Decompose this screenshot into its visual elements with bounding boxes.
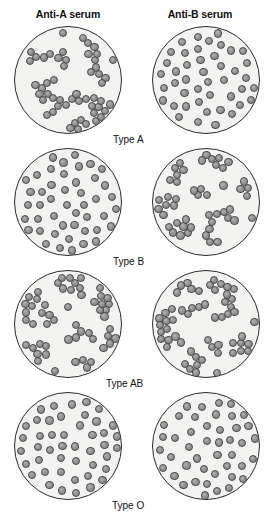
blood-cell xyxy=(21,215,29,223)
blood-cell xyxy=(160,421,168,429)
blood-cell xyxy=(98,79,106,87)
blood-cell xyxy=(206,91,214,99)
blood-cell xyxy=(60,170,68,178)
blood-cell xyxy=(89,461,97,469)
blood-cell xyxy=(59,158,67,166)
blood-cell xyxy=(205,37,213,45)
blood-cell xyxy=(238,439,246,447)
column-header-anti-b-serum: Anti-B serum xyxy=(132,8,268,20)
blood-cell xyxy=(34,288,42,296)
blood-cell xyxy=(249,455,257,463)
blood-cell xyxy=(236,185,244,193)
blood-cell xyxy=(65,235,73,243)
blood-cell xyxy=(70,221,78,229)
blood-cell xyxy=(33,295,41,303)
blood-cell xyxy=(50,402,58,410)
blood-cell xyxy=(34,215,42,223)
blood-cell xyxy=(181,360,189,368)
blood-cell xyxy=(192,368,200,376)
blood-cell xyxy=(33,171,41,179)
blood-cell xyxy=(92,237,100,245)
blood-type-row-type-a: Type A xyxy=(0,26,268,148)
blood-cell xyxy=(214,29,222,37)
blood-cell xyxy=(179,481,187,489)
blood-cell xyxy=(103,452,111,460)
blood-cell xyxy=(157,70,165,78)
blood-cell xyxy=(72,178,80,186)
blood-cell xyxy=(100,441,108,449)
blood-cell xyxy=(215,438,223,446)
blood-cell xyxy=(89,335,97,343)
blood-cell xyxy=(230,285,238,293)
blood-cell xyxy=(109,421,117,429)
blood-cell xyxy=(187,223,195,231)
well-type-o-anti-b xyxy=(152,392,260,500)
blood-cell xyxy=(106,325,114,333)
blood-cell xyxy=(200,465,208,473)
blood-cell xyxy=(226,436,234,444)
blood-cell xyxy=(56,244,64,252)
blood-cell xyxy=(42,240,50,248)
blood-cell xyxy=(90,109,98,117)
blood-cell xyxy=(101,181,109,189)
blood-cell xyxy=(49,153,57,161)
blood-cell xyxy=(230,308,238,316)
blood-cell xyxy=(45,481,53,489)
blood-cell xyxy=(172,67,180,75)
blood-cell xyxy=(187,428,195,436)
blood-cell xyxy=(166,176,174,184)
blood-cell xyxy=(33,416,41,424)
blood-cell xyxy=(81,227,89,235)
blood-cell xyxy=(213,369,221,377)
blood-cell xyxy=(194,85,202,93)
blood-cell xyxy=(164,193,172,201)
blood-cell xyxy=(72,457,80,465)
blood-cell xyxy=(59,221,67,229)
blood-cell xyxy=(159,96,167,104)
blood-cell xyxy=(58,486,66,494)
blood-cell xyxy=(220,76,228,84)
blood-type-label-type-b: Type B xyxy=(113,256,144,267)
blood-cell xyxy=(171,434,179,442)
blood-cell xyxy=(90,94,98,102)
blood-cell xyxy=(217,41,225,49)
blood-cell xyxy=(58,274,66,282)
blood-cell xyxy=(71,358,79,366)
blood-cell xyxy=(36,201,44,209)
blood-cell xyxy=(107,222,115,230)
blood-cell xyxy=(50,212,58,220)
blood-cell xyxy=(227,92,235,100)
blood-cell xyxy=(91,174,99,182)
blood-cell xyxy=(238,462,246,470)
blood-cell xyxy=(238,85,246,93)
blood-cell xyxy=(159,464,167,472)
blood-cell xyxy=(76,421,84,429)
blood-cell xyxy=(160,84,168,92)
blood-cell xyxy=(210,52,218,60)
blood-cell xyxy=(34,357,42,365)
blood-cell xyxy=(225,484,233,492)
blood-cell xyxy=(203,422,211,430)
blood-cell xyxy=(112,205,120,213)
blood-cell xyxy=(213,487,221,495)
blood-cell xyxy=(46,50,54,58)
blood-cell xyxy=(24,201,32,209)
blood-cell xyxy=(203,480,211,488)
blood-cell xyxy=(39,96,47,104)
blood-cell xyxy=(219,181,227,189)
blood-cell xyxy=(203,437,211,445)
blood-cell xyxy=(61,186,69,194)
blood-cell xyxy=(215,154,223,162)
blood-cell xyxy=(86,447,94,455)
blood-cell xyxy=(182,215,190,223)
blood-cell xyxy=(231,67,239,75)
blood-cell xyxy=(86,483,94,491)
blood-cell xyxy=(237,347,245,355)
blood-cell xyxy=(217,62,225,70)
blood-cell xyxy=(243,59,251,67)
blood-cell xyxy=(92,195,100,203)
blood-cell xyxy=(198,156,206,164)
blood-cell xyxy=(180,89,188,97)
blood-cell xyxy=(167,48,175,56)
blood-type-label-type-o: Type O xyxy=(112,500,144,511)
